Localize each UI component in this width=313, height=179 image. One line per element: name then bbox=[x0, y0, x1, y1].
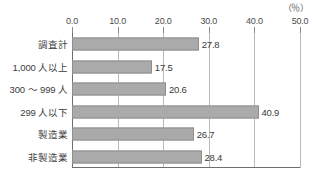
plot-area: 調査計27.81,000 人以上17.5300 ～ 999 人20.6299 人… bbox=[72, 33, 300, 168]
category-label: 1,000 人以上 bbox=[12, 60, 68, 74]
bar-value-label: 17.5 bbox=[155, 61, 173, 72]
category-label: 非製造業 bbox=[28, 150, 68, 164]
bar-value-label: 20.6 bbox=[169, 84, 187, 95]
bar bbox=[72, 60, 152, 73]
bar-row: 1,000 人以上17.5 bbox=[72, 56, 300, 79]
bar-row: 300 ～ 999 人20.6 bbox=[72, 78, 300, 101]
bar-value-label: 28.4 bbox=[205, 151, 223, 162]
x-axis-baseline bbox=[72, 167, 300, 168]
bar-value-label: 27.8 bbox=[202, 39, 220, 50]
x-tick-label: 0.0 bbox=[66, 16, 78, 26]
bar bbox=[72, 150, 202, 163]
category-label: 299 人以下 bbox=[20, 105, 68, 119]
bar bbox=[72, 128, 194, 141]
bar bbox=[72, 38, 199, 51]
bar bbox=[72, 83, 166, 96]
x-tick-label: 30.0 bbox=[200, 16, 217, 26]
bar-row: 調査計27.8 bbox=[72, 33, 300, 56]
x-tick-label: 20.0 bbox=[155, 16, 172, 26]
bar-value-label: 26.7 bbox=[197, 129, 215, 140]
gridline bbox=[300, 33, 301, 168]
bar-row: 299 人以下40.9 bbox=[72, 101, 300, 124]
x-tick-label: 10.0 bbox=[109, 16, 126, 26]
bar-value-label: 40.9 bbox=[262, 106, 280, 117]
category-label: 調査計 bbox=[38, 37, 68, 51]
x-tick-label: 50.0 bbox=[292, 16, 309, 26]
category-label: 300 ～ 999 人 bbox=[9, 82, 68, 96]
bar bbox=[72, 105, 259, 118]
x-tick-mark bbox=[300, 27, 301, 33]
unit-label: （％） bbox=[283, 1, 309, 14]
bar-row: 製造業26.7 bbox=[72, 123, 300, 146]
bar-row: 非製造業28.4 bbox=[72, 146, 300, 169]
bar-chart: （％） 0.010.020.030.040.050.0 調査計27.81,000… bbox=[0, 0, 313, 179]
category-label: 製造業 bbox=[38, 127, 68, 141]
x-tick-label: 40.0 bbox=[246, 16, 263, 26]
